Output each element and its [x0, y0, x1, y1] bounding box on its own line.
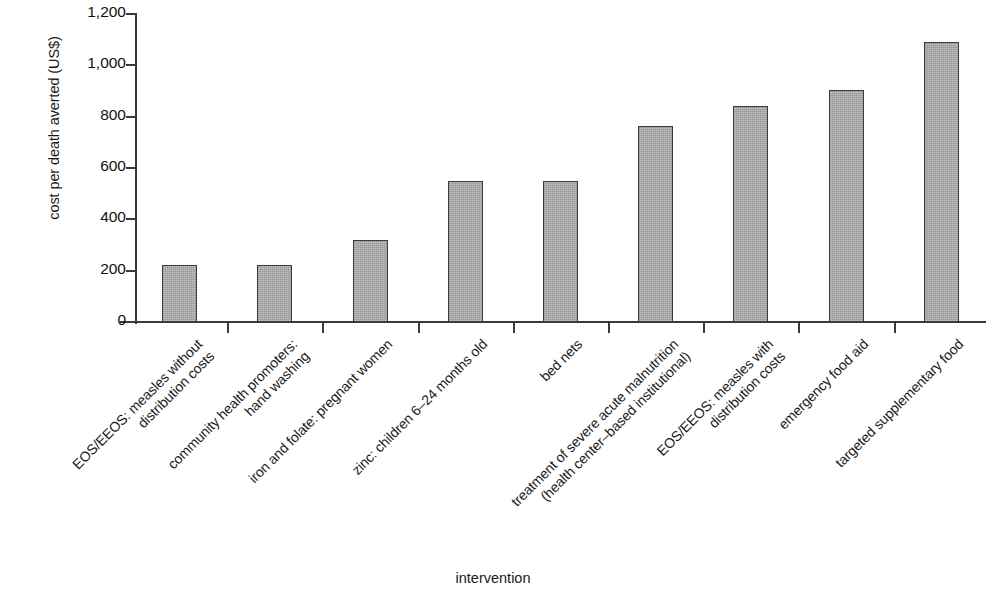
- x-axis-category-label: bed nets: [362, 336, 586, 560]
- y-axis-tick: [126, 13, 135, 15]
- y-axis-tick-label: 1,200: [66, 3, 126, 21]
- bar: [638, 126, 673, 322]
- x-axis-tick: [798, 323, 800, 333]
- bar: [353, 240, 388, 322]
- category-label-line-1: bed nets: [537, 336, 585, 384]
- x-axis-tick: [513, 323, 515, 333]
- y-axis-tick-label: 800: [66, 106, 126, 124]
- x-axis-tick: [418, 323, 420, 333]
- y-axis-tick: [126, 64, 135, 66]
- bar: [448, 181, 483, 322]
- y-axis-tick-label: 200: [66, 260, 126, 278]
- x-axis-tick: [894, 323, 896, 333]
- y-axis-tick: [126, 218, 135, 220]
- y-axis-tick: [126, 116, 135, 118]
- bar: [257, 265, 292, 322]
- bar: [924, 42, 959, 322]
- y-axis-tick: [126, 167, 135, 169]
- x-axis-title: intervention: [0, 570, 986, 586]
- y-axis-line: [135, 13, 137, 324]
- x-axis-tick: [608, 323, 610, 333]
- bar: [829, 90, 864, 322]
- bar: [162, 265, 197, 322]
- y-axis-tick-label: 600: [66, 157, 126, 175]
- y-axis-tick: [126, 321, 135, 323]
- y-axis-tick-label: 0: [66, 311, 126, 329]
- y-axis-tick-label: 400: [66, 208, 126, 226]
- bar: [733, 106, 768, 322]
- category-label-line-1: emergency food aid: [775, 336, 871, 432]
- bar: [543, 181, 578, 322]
- x-axis-tick: [703, 323, 705, 333]
- y-axis-tick-label: 1,000: [66, 54, 126, 72]
- y-axis-tick: [126, 270, 135, 272]
- x-axis-tick: [322, 323, 324, 333]
- y-axis-title: cost per death averted (US$): [46, 0, 62, 278]
- bar-chart: cost per death averted (US$) 02004006008…: [0, 0, 986, 599]
- x-axis-tick: [227, 323, 229, 333]
